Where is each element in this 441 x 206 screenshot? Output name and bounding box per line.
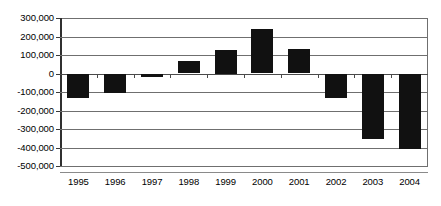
y-axis-tick-label: 300,000 bbox=[0, 13, 54, 23]
y-axis-tick-label: -100,000 bbox=[0, 87, 54, 97]
bar bbox=[288, 49, 310, 73]
y-axis-tick-label: 200,000 bbox=[0, 32, 54, 42]
x-axis-tick-label: 2003 bbox=[353, 176, 393, 187]
x-axis-tick-label: 2001 bbox=[279, 176, 319, 187]
bar bbox=[104, 74, 126, 93]
y-axis-tick bbox=[56, 166, 60, 167]
y-axis-tick-label: -500,000 bbox=[0, 161, 54, 171]
bar bbox=[215, 50, 237, 73]
x-axis-tick bbox=[391, 74, 392, 78]
x-axis-tick-label: 1995 bbox=[58, 176, 98, 187]
x-axis-tick bbox=[354, 74, 355, 78]
y-axis-tick-label: 100,000 bbox=[0, 50, 54, 60]
x-axis-tick-label: 1998 bbox=[169, 176, 209, 187]
x-axis-tick-label: 1996 bbox=[95, 176, 135, 187]
x-axis-tick bbox=[97, 74, 98, 78]
y-axis-tick-label: -200,000 bbox=[0, 106, 54, 116]
x-axis-tick bbox=[134, 74, 135, 78]
y-axis-tick-label: -300,000 bbox=[0, 124, 54, 134]
x-axis-tick-label: 2000 bbox=[242, 176, 282, 187]
bar bbox=[67, 74, 89, 99]
x-axis-line bbox=[60, 172, 428, 173]
y-axis-tick-label: 0 bbox=[0, 69, 54, 79]
x-axis-tick-label: 2004 bbox=[390, 176, 430, 187]
bar-series bbox=[60, 18, 428, 166]
plot-area bbox=[60, 18, 428, 166]
bar bbox=[141, 74, 163, 78]
x-axis-tick bbox=[207, 74, 208, 78]
y-axis-labels: 300,000200,000100,0000-100,000-200,000-3… bbox=[0, 0, 54, 206]
x-axis-tick-label: 1997 bbox=[132, 176, 172, 187]
x-axis-tick bbox=[244, 74, 245, 78]
x-axis-tick-label: 1999 bbox=[206, 176, 246, 187]
x-axis-tick bbox=[318, 74, 319, 78]
x-axis-tick bbox=[170, 74, 171, 78]
gridline bbox=[60, 166, 428, 167]
y-axis-tick-label: -400,000 bbox=[0, 143, 54, 153]
x-axis-labels: 1995199619971998199920002001200220032004 bbox=[60, 176, 428, 196]
x-axis-tick-label: 2002 bbox=[316, 176, 356, 187]
bar bbox=[362, 74, 384, 140]
bar bbox=[325, 74, 347, 98]
bar bbox=[251, 29, 273, 73]
bar bbox=[399, 74, 421, 150]
bar-chart: 300,000200,000100,0000-100,000-200,000-3… bbox=[0, 0, 441, 206]
x-axis-tick bbox=[281, 74, 282, 78]
bar bbox=[178, 61, 200, 73]
